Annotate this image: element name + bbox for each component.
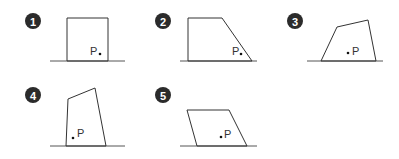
rectangle-shape [67, 18, 108, 61]
quadrilateral-shape [321, 20, 376, 61]
figure-3: 3 P [287, 13, 383, 61]
figure-2: 2 P [155, 13, 257, 61]
badge-number: 5 [160, 90, 166, 102]
point-p [240, 53, 243, 56]
point-p [72, 137, 75, 140]
badge-number: 4 [30, 90, 37, 102]
parallelogram-shape [187, 110, 247, 146]
point-p [99, 53, 102, 56]
badge-number: 3 [292, 16, 298, 28]
trapezoid-shape [188, 18, 252, 61]
figure-canvas: 1 P 2 P 3 P 4 P 5 P [0, 0, 399, 159]
point-label: P [352, 45, 359, 57]
point-label: P [232, 45, 239, 57]
point-label: P [90, 45, 97, 57]
badge-number: 2 [160, 16, 166, 28]
point-label: P [224, 128, 231, 140]
badge-number: 1 [30, 16, 36, 28]
figure-4: 4 P [25, 87, 125, 146]
figure-1: 1 P [25, 13, 125, 61]
point-p [347, 52, 350, 55]
point-label: P [77, 127, 84, 139]
point-p [220, 136, 223, 139]
figure-5: 5 P [155, 87, 257, 146]
